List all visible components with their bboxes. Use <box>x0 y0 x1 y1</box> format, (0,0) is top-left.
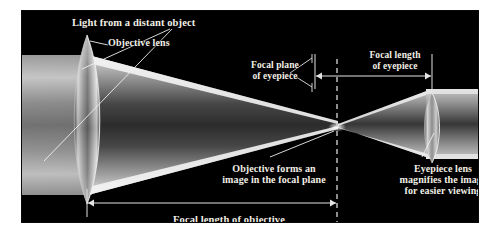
label-eyepiece-magnifies-line3: for easier viewing <box>405 185 479 196</box>
label-focal-plane-of-eyepiece: Focal plane of eyepiece <box>244 60 306 81</box>
label-focal-length-of-eyepiece: Focal length of eyepiece <box>352 50 438 71</box>
focal-length-objective-measure <box>87 189 336 217</box>
telescope-diagram-figure: Light from a distant object Objective le… <box>0 0 494 239</box>
label-focal-length-eyepiece-line1: Focal length <box>369 50 420 60</box>
label-objective-forms-line2: image in the focal plane <box>222 174 326 185</box>
label-focal-length-of-objective: Focal length of objective <box>134 214 324 222</box>
label-focal-length-eyepiece-line2: of eyepiece <box>372 61 417 71</box>
exiting-light-beam <box>338 89 478 159</box>
label-objective-forms-line1: Objective forms an <box>232 163 315 174</box>
diagram-panel: Light from a distant object Objective le… <box>22 11 478 222</box>
label-objective-forms-image: Objective forms an image in the focal pl… <box>210 163 338 185</box>
label-light-from-distant-object: Light from a distant object <box>72 17 195 29</box>
label-eyepiece-magnifies: Eyepiece lens magnifies the image for ea… <box>382 163 478 197</box>
label-eyepiece-magnifies-line2: magnifies the image <box>400 174 478 185</box>
label-focal-plane-line2: of eyepiece <box>252 71 297 81</box>
label-eyepiece-magnifies-line1: Eyepiece lens <box>414 163 472 174</box>
label-objective-lens: Objective lens <box>108 37 170 48</box>
leader-line-objective-lens <box>90 41 108 45</box>
label-focal-plane-line1: Focal plane <box>251 60 299 70</box>
